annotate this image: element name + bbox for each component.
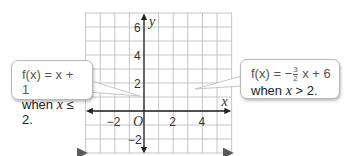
callout-right: f(x) = −32 x + 6 when x > 2.: [240, 59, 340, 99]
callout-left: f(x) = x + 1 when x ≤ 2.: [11, 60, 93, 100]
callout-left-pointer: [88, 80, 140, 96]
condition-word: when: [251, 83, 286, 98]
y-axis-label: y: [147, 14, 156, 29]
callout-right-condition: when x > 2.: [251, 83, 331, 98]
y-tick-label: 2: [134, 77, 141, 91]
grid: [86, 13, 232, 153]
x-tick-label: −2: [107, 115, 121, 129]
y-tick-label: 4: [134, 49, 141, 63]
function-suffix: x + 6: [299, 66, 331, 81]
callout-right-function: f(x) = −32 x + 6: [251, 66, 331, 83]
condition-rest: > 2.: [292, 83, 318, 98]
callout-left-condition: when x ≤ 2.: [22, 97, 84, 127]
y-tick-label: 6: [134, 21, 141, 35]
x-axis-label: x: [221, 94, 229, 109]
fraction: 32: [293, 66, 297, 83]
function-text: f(x) = x + 1: [22, 67, 73, 97]
origin-label: O: [133, 114, 143, 129]
x-tick-label: 4: [198, 115, 205, 129]
x-tick-label: 2: [169, 115, 176, 129]
condition-word: when: [22, 97, 57, 112]
y-tick-label: −2: [128, 133, 142, 147]
function-prefix: f(x) = −: [251, 66, 292, 81]
fraction-denominator: 2: [293, 75, 297, 83]
callout-left-function: f(x) = x + 1: [22, 67, 84, 97]
tick-labels: −224642−2Oxy: [107, 14, 229, 147]
